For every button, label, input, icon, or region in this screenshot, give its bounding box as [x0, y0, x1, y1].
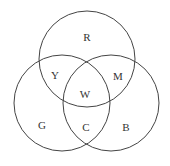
label-r: R	[83, 31, 91, 43]
label-b: B	[122, 121, 129, 133]
label-g: G	[38, 119, 46, 131]
venn-diagram: R Y M W G C B	[0, 0, 170, 166]
circle-left	[14, 55, 110, 151]
label-c: C	[82, 121, 89, 133]
circle-right	[63, 55, 159, 151]
label-y: Y	[51, 69, 59, 81]
label-w: W	[80, 88, 91, 100]
label-m: M	[113, 70, 123, 82]
